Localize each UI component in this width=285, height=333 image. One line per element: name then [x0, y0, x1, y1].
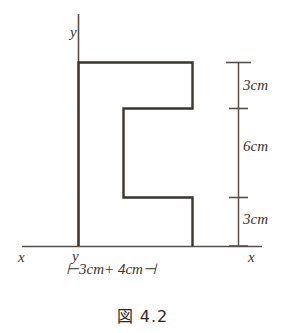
- caption-number: 4.2: [140, 307, 168, 326]
- figure-container: y y x x 3cm 6cm 3cm ⊢3cm+ 4cm⊣ 図4.2: [0, 0, 285, 333]
- bottom-dimension-left-tick: ⊢: [66, 261, 79, 277]
- c-shape-outline: [79, 63, 193, 247]
- bottom-dimension-right-tick: ⊣: [143, 261, 156, 277]
- vertical-dimension-label-middle: 6cm: [243, 139, 268, 154]
- x-axis-label-right: x: [248, 250, 255, 265]
- vertical-dimension-label-top: 3cm: [243, 78, 268, 93]
- caption-symbol: 図: [117, 307, 134, 326]
- figure-caption: 図4.2: [0, 303, 285, 327]
- x-axis-label-left: x: [18, 250, 25, 265]
- bottom-dimension-middle-tick: +: [104, 261, 118, 277]
- bottom-dimension-label-second: 4cm: [118, 261, 143, 277]
- y-axis-label-top: y: [70, 25, 77, 40]
- bottom-dimension-row: ⊢3cm+ 4cm⊣: [66, 262, 156, 277]
- vertical-dimension-label-bottom: 3cm: [243, 212, 268, 227]
- bottom-dimension-label-first: 3cm: [79, 261, 104, 277]
- figure-drawing: [0, 0, 285, 333]
